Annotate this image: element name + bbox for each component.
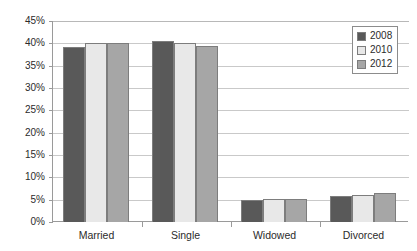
bar-slot — [330, 21, 352, 222]
bar[interactable] — [374, 193, 396, 222]
legend-item-label: 2008 — [370, 30, 392, 42]
legend-item[interactable]: 2008 — [357, 30, 392, 42]
x-axis-category-label: Widowed — [230, 228, 319, 242]
bar[interactable] — [174, 43, 196, 222]
x-axis-category-label: Single — [141, 228, 230, 242]
y-axis-tick-label: 25% — [7, 103, 45, 117]
bar[interactable] — [285, 199, 307, 222]
bar[interactable] — [330, 196, 352, 222]
legend-item[interactable]: 2012 — [357, 58, 392, 70]
bar-slot — [107, 21, 129, 222]
bar-slot — [152, 21, 174, 222]
legend-swatch-icon — [357, 60, 366, 69]
bar[interactable] — [107, 43, 129, 222]
y-axis-tick-label: 35% — [7, 59, 45, 73]
bar[interactable] — [63, 47, 85, 222]
bar[interactable] — [241, 200, 263, 222]
bar[interactable] — [352, 195, 374, 222]
bar-slot — [241, 21, 263, 222]
x-tick-mark — [320, 222, 321, 227]
bar-slot — [263, 21, 285, 222]
legend-swatch-icon — [357, 46, 366, 55]
x-axis-category-label: Married — [52, 228, 141, 242]
y-axis-tick-label: 0% — [7, 215, 45, 229]
legend-item-label: 2010 — [370, 44, 392, 56]
bar-group — [142, 21, 231, 222]
x-tick-mark — [231, 222, 232, 227]
bar[interactable] — [196, 46, 218, 222]
y-axis-tick-label: 45% — [7, 14, 45, 28]
bar-slot — [196, 21, 218, 222]
x-tick-mark — [142, 222, 143, 227]
y-axis-tick-label: 10% — [7, 170, 45, 184]
x-axis-category-label: Divorced — [319, 228, 408, 242]
bar-slot — [285, 21, 307, 222]
bar-chart: 45%40%35%30%25%20%15%10%5%0% MarriedSing… — [0, 0, 417, 251]
y-axis-tick-label: 40% — [7, 36, 45, 50]
bar[interactable] — [85, 43, 107, 222]
y-axis-tick-label: 30% — [7, 81, 45, 95]
y-axis-tick-label: 20% — [7, 126, 45, 140]
bar-slot — [174, 21, 196, 222]
legend: 200820102012 — [352, 26, 398, 74]
legend-item-label: 2012 — [370, 58, 392, 70]
bar[interactable] — [152, 41, 174, 222]
legend-item[interactable]: 2010 — [357, 44, 392, 56]
y-axis-tick-label: 15% — [7, 148, 45, 162]
bar-group — [53, 21, 142, 222]
y-tick-mark — [49, 222, 53, 223]
y-axis-tick-label: 5% — [7, 193, 45, 207]
legend-swatch-icon — [357, 32, 366, 41]
x-axis-category-labels: MarriedSingleWidowedDivorced — [52, 228, 408, 242]
bar-slot — [63, 21, 85, 222]
bar-group — [231, 21, 320, 222]
bar-slot — [85, 21, 107, 222]
bar[interactable] — [263, 199, 285, 222]
